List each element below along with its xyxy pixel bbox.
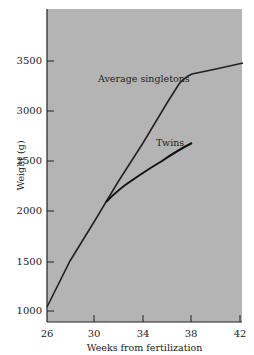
ytick-1000: 1000	[17, 305, 42, 316]
x-axis-label: Weeks from fertilization	[47, 342, 242, 353]
ytick-2000: 2000	[17, 205, 42, 216]
xtick-30: 30	[79, 328, 109, 339]
y-ticks	[47, 61, 54, 311]
y-axis-label: Weight (g)	[15, 136, 26, 196]
xtick-38: 38	[176, 328, 206, 339]
label-twins: Twins	[156, 137, 184, 148]
ytick-1500: 1500	[17, 256, 42, 267]
xtick-42: 42	[225, 328, 254, 339]
ytick-3500: 3500	[17, 55, 42, 66]
x-ticks	[94, 315, 240, 322]
chart-lines	[0, 0, 254, 355]
series-twins-line	[106, 143, 192, 202]
xtick-34: 34	[128, 328, 158, 339]
ytick-3000: 3000	[17, 105, 42, 116]
label-singletons: Average singletons	[98, 73, 190, 84]
series-singletons-line	[47, 63, 243, 307]
xtick-26: 26	[32, 328, 62, 339]
